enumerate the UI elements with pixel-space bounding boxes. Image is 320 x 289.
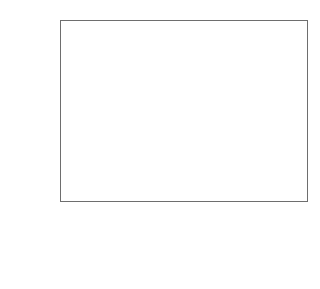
chart-container	[0, 0, 320, 289]
bar-groups	[60, 20, 308, 202]
y-axis-ticks	[0, 20, 60, 202]
x-axis-ticks	[60, 202, 308, 206]
